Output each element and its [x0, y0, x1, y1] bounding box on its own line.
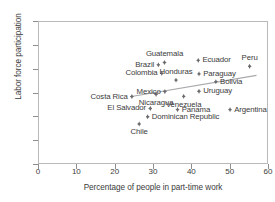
data-point-label: El Salvador	[107, 105, 146, 113]
data-point-label: Bolivia	[220, 78, 242, 86]
x-axis-title: Percentage of people in part-time work	[38, 183, 268, 192]
data-point-label: Costa Rica	[91, 93, 128, 101]
x-tick-mark	[191, 164, 192, 169]
data-point-label: Peru	[242, 54, 258, 62]
x-tick-mark	[153, 164, 154, 169]
x-tick-label: 40	[171, 168, 211, 176]
data-point-label: Dominican Republic	[152, 113, 220, 121]
x-tick-label: 50	[210, 168, 250, 176]
x-tick-label: 30	[133, 168, 173, 176]
x-tick-mark	[76, 164, 77, 169]
x-tick-label: 20	[95, 168, 135, 176]
data-point-label: Mexico	[137, 88, 161, 96]
x-tick-label: 10	[56, 168, 96, 176]
data-point-label: Honduras	[159, 68, 192, 76]
data-point-label: Venezuela	[166, 101, 202, 109]
x-tick-mark	[268, 164, 269, 169]
x-tick-mark	[230, 164, 231, 169]
x-tick-mark	[38, 164, 39, 169]
y-axis-title: Labor force participation	[14, 0, 23, 122]
data-point-label: Colombia	[125, 70, 157, 78]
data-point-label: Argentina	[234, 106, 266, 114]
x-tick-label: 60	[248, 168, 275, 176]
data-point-label: Guatemala	[146, 50, 183, 58]
data-point-label: Ecuador	[202, 56, 230, 64]
data-point-label: Chile	[131, 128, 148, 136]
data-point-label: Uruguay	[203, 87, 232, 95]
x-tick-mark	[115, 164, 116, 169]
scatter-chart: Labor force participation Percentage of …	[0, 0, 275, 202]
x-tick-label: 0	[18, 168, 58, 176]
